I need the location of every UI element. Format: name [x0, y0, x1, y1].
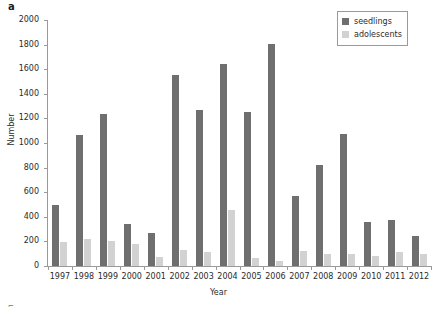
y-axis-title: Number: [7, 95, 16, 165]
x-tick-mark: [335, 266, 336, 270]
bar-seedlings-2001: [148, 233, 155, 266]
bar-adolescents-2004: [228, 210, 235, 266]
y-tick: 1800: [0, 45, 48, 46]
y-tick: 800: [0, 168, 48, 169]
y-tick: 1000: [0, 143, 48, 144]
y-tick: 1400: [0, 94, 48, 95]
legend-swatch-icon: [342, 31, 349, 38]
legend-item-seedlings: seedlings: [342, 15, 402, 28]
x-tick-mark: [168, 266, 169, 270]
x-tick-mark: [192, 266, 193, 270]
y-tick: 2000: [0, 20, 48, 21]
x-tick-mark: [383, 266, 384, 270]
y-tick-label: 0: [34, 261, 39, 270]
legend-item-adolescents: adolescents: [342, 28, 402, 41]
y-tick: 400: [0, 217, 48, 218]
bar-adolescents-1997: [60, 242, 67, 266]
plot-area: [48, 20, 431, 266]
bar-seedlings-2002: [172, 75, 179, 266]
legend-label: adolescents: [354, 30, 402, 39]
x-tick-mark: [72, 266, 73, 270]
x-tick-mark: [144, 266, 145, 270]
bar-adolescents-2006: [276, 261, 283, 266]
y-tick-label: 1800: [19, 40, 39, 49]
bar-adolescents-2000: [132, 244, 139, 266]
x-tick-mark: [120, 266, 121, 270]
figure-panel-a: a Number Year 02004006008001000120014001…: [0, 0, 437, 309]
legend-label: seedlings: [354, 17, 392, 26]
bar-seedlings-2005: [244, 112, 251, 266]
bar-seedlings-2003: [196, 110, 203, 266]
x-tick-mark: [96, 266, 97, 270]
chart-legend: seedlingsadolescents: [337, 11, 408, 46]
y-tick-label: 1400: [19, 89, 39, 98]
y-tick: 1200: [0, 118, 48, 119]
bar-adolescents-1998: [84, 239, 91, 266]
bar-adolescents-2010: [372, 256, 379, 266]
x-tick-mark: [359, 266, 360, 270]
bar-adolescents-1999: [108, 241, 115, 266]
y-tick: 1600: [0, 69, 48, 70]
bar-seedlings-2012: [412, 236, 419, 266]
bar-seedlings-1998: [76, 135, 83, 266]
y-tick-label: 1000: [19, 138, 39, 147]
y-tick: 0: [0, 266, 48, 267]
bar-adolescents-2009: [348, 254, 355, 266]
y-tick-label: 200: [24, 236, 39, 245]
bar-seedlings-2009: [340, 134, 347, 266]
y-tick-label: 1200: [19, 113, 39, 122]
bar-seedlings-2000: [124, 224, 131, 266]
y-tick-label: 600: [24, 187, 39, 196]
bar-adolescents-2008: [324, 254, 331, 266]
page-artifact-mark: ⌐: [8, 303, 14, 309]
bar-adolescents-2012: [420, 254, 427, 266]
bar-seedlings-2007: [292, 196, 299, 266]
bar-seedlings-2006: [268, 44, 275, 266]
x-tick-label: 2012: [405, 272, 433, 281]
bar-adolescents-2002: [180, 250, 187, 266]
bar-seedlings-1999: [100, 114, 107, 266]
x-tick-mark: [216, 266, 217, 270]
x-tick-mark: [431, 266, 432, 270]
x-axis-title: Year: [0, 288, 437, 297]
y-tick-label: 2000: [19, 15, 39, 24]
bar-seedlings-2011: [388, 220, 395, 266]
bar-seedlings-2008: [316, 165, 323, 266]
y-tick: 600: [0, 192, 48, 193]
y-tick-label: 1600: [19, 64, 39, 73]
x-tick-mark: [287, 266, 288, 270]
y-tick-label: 800: [24, 163, 39, 172]
x-tick-mark: [48, 266, 49, 270]
bar-adolescents-2001: [156, 257, 163, 266]
bar-adolescents-2003: [204, 252, 211, 266]
y-tick-label: 400: [24, 212, 39, 221]
legend-swatch-icon: [342, 18, 349, 25]
panel-letter-label: a: [8, 1, 15, 12]
x-tick-mark: [240, 266, 241, 270]
x-tick-mark: [407, 266, 408, 270]
y-tick: 200: [0, 241, 48, 242]
bar-adolescents-2005: [252, 258, 259, 266]
bar-seedlings-1997: [52, 205, 59, 267]
bar-adolescents-2007: [300, 251, 307, 266]
bar-adolescents-2011: [396, 252, 403, 266]
x-tick-mark: [263, 266, 264, 270]
x-tick-mark: [311, 266, 312, 270]
bar-seedlings-2010: [364, 222, 371, 266]
bar-seedlings-2004: [220, 64, 227, 266]
